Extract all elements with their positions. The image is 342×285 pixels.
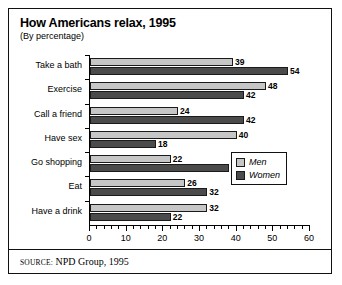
x-axis-minor-tick	[155, 226, 156, 229]
x-axis-minor-tick	[265, 226, 266, 229]
bar-value-label: 26	[187, 179, 196, 187]
bar-women	[90, 116, 244, 124]
category-label: Go shopping	[31, 157, 82, 168]
x-axis-minor-tick	[287, 226, 288, 229]
bar-row: Have sex4018	[89, 128, 309, 152]
category-label: Have a drink	[31, 206, 82, 217]
x-axis-minor-tick	[250, 226, 251, 229]
x-axis-minor-tick	[192, 226, 193, 229]
legend-swatch-women-icon	[236, 171, 245, 180]
x-axis-minor-tick	[294, 226, 295, 229]
category-label: Call a friend	[34, 109, 82, 120]
bar-women	[90, 140, 156, 148]
bar-value-label: 32	[209, 188, 218, 196]
x-axis: 0102030405060	[89, 225, 310, 251]
x-axis-minor-tick	[184, 226, 185, 229]
x-axis-minor-tick	[133, 226, 134, 229]
x-axis-major-tick	[199, 226, 200, 231]
category-label: Have sex	[44, 133, 82, 144]
bar-women	[90, 213, 171, 221]
bar-women	[90, 67, 288, 75]
bar-value-label: 39	[235, 58, 244, 66]
source-text: NPD Group, 1995	[56, 256, 129, 267]
y-axis-tick	[85, 128, 89, 129]
x-axis-minor-tick	[96, 226, 97, 229]
chart-legend: Men Women	[231, 152, 287, 185]
legend-swatch-men-icon	[236, 158, 245, 167]
y-axis-tick	[85, 176, 89, 177]
x-axis-major-tick	[89, 226, 90, 231]
x-axis-minor-tick	[243, 226, 244, 229]
bar-women	[90, 91, 244, 99]
plot-area: Take a bath3954Exercise4842Call a friend…	[89, 55, 309, 225]
bar-value-label: 42	[246, 91, 255, 99]
bar-value-label: 48	[268, 82, 277, 90]
bar-men	[90, 58, 233, 66]
bar-men	[90, 131, 237, 139]
legend-label-women: Women	[249, 170, 280, 181]
bar-men	[90, 155, 171, 163]
bar-value-label: 24	[180, 107, 189, 115]
bar-value-label: 22	[173, 155, 182, 163]
bar-row: Exercise4842	[89, 79, 309, 103]
bar-men	[90, 204, 207, 212]
x-axis-minor-tick	[302, 226, 303, 229]
y-axis-tick	[85, 201, 89, 202]
chart-header: How Americans relax, 1995 (By percentage…	[20, 16, 310, 42]
x-axis-major-tick	[272, 226, 273, 231]
x-axis-minor-tick	[104, 226, 105, 229]
chart-subtitle: (By percentage)	[20, 31, 310, 42]
category-label: Eat	[68, 181, 82, 192]
x-axis-minor-tick	[258, 226, 259, 229]
chart-figure: How Americans relax, 1995 (By percentage…	[8, 8, 332, 274]
x-axis-minor-tick	[214, 226, 215, 229]
x-axis-major-tick	[309, 226, 310, 231]
category-label: Exercise	[47, 84, 82, 95]
bar-value-label: 22	[173, 213, 182, 221]
x-axis-tick-label: 50	[267, 233, 277, 243]
x-axis-tick-label: 10	[121, 233, 131, 243]
x-axis-minor-tick	[140, 226, 141, 229]
legend-label-men: Men	[249, 157, 267, 168]
x-axis-minor-tick	[111, 226, 112, 229]
y-axis-tick	[85, 55, 89, 56]
x-axis-minor-tick	[221, 226, 222, 229]
x-axis-major-tick	[236, 226, 237, 231]
x-axis-minor-tick	[148, 226, 149, 229]
x-axis-minor-tick	[118, 226, 119, 229]
x-axis-minor-tick	[177, 226, 178, 229]
bar-men	[90, 107, 178, 115]
bar-value-label: 54	[290, 67, 299, 75]
x-axis-tick-label: 60	[304, 233, 314, 243]
x-axis-minor-tick	[206, 226, 207, 229]
x-axis-minor-tick	[170, 226, 171, 229]
bar-row: Take a bath3954	[89, 55, 309, 79]
bar-men	[90, 179, 185, 187]
bar-value-label: 32	[209, 204, 218, 212]
bar-row: Call a friend2442	[89, 104, 309, 128]
x-axis-tick-label: 20	[157, 233, 167, 243]
x-axis-major-tick	[162, 226, 163, 231]
source-divider	[9, 249, 331, 250]
x-axis-minor-tick	[228, 226, 229, 229]
x-axis-tick-label: 30	[194, 233, 204, 243]
x-axis-tick-label: 40	[231, 233, 241, 243]
x-axis-minor-tick	[280, 226, 281, 229]
bar-row: Have a drink3222	[89, 201, 309, 225]
bar-men	[90, 82, 266, 90]
bar-value-label: 42	[246, 116, 255, 124]
y-axis-tick	[85, 79, 89, 80]
category-label: Take a bath	[35, 60, 82, 71]
x-axis-tick-label: 0	[86, 233, 91, 243]
bar-value-label: 40	[239, 131, 248, 139]
y-axis-tick	[85, 152, 89, 153]
bar-women	[90, 164, 229, 172]
bar-women	[90, 188, 207, 196]
bar-value-label: 18	[158, 140, 167, 148]
y-axis-tick	[85, 104, 89, 105]
source-label: SOURCE:	[20, 258, 53, 267]
x-axis-major-tick	[126, 226, 127, 231]
chart-title: How Americans relax, 1995	[20, 16, 310, 30]
source-note: SOURCE: NPD Group, 1995	[20, 256, 129, 269]
